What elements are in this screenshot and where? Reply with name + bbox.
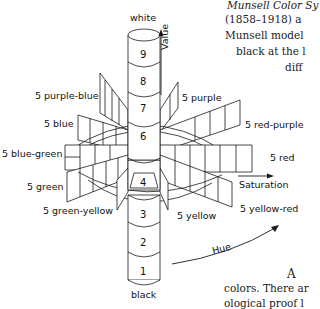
value-level-8: 8: [140, 77, 146, 87]
body-text-line-6: A: [287, 268, 296, 280]
value-level-6: 6: [140, 132, 146, 142]
value-level-9: 9: [140, 50, 146, 60]
value-level-2: 2: [140, 238, 146, 248]
fin-purple-blue: [100, 73, 128, 130]
value-level-3: 3: [140, 210, 146, 220]
hue-label-blue: 5 blue: [44, 119, 74, 129]
body-text-line-8: ological proof l: [224, 298, 304, 309]
body-text-line-4: black at the l: [236, 46, 306, 57]
white-label: white: [130, 13, 156, 23]
hue-label-green: 5 green: [27, 182, 64, 192]
body-text-line-5: diff: [285, 62, 303, 73]
value-level-4: 4: [140, 178, 146, 188]
body-text-line-1: Munsell Color Sy: [227, 0, 318, 11]
hue-label-red-purple: 5 red-purple: [245, 120, 304, 130]
saturation-label: Saturation: [239, 180, 289, 190]
hue-label-blue-green: 5 blue-green: [2, 149, 62, 159]
hue-label-purple: 5 purple: [182, 93, 222, 103]
hue-label-red: 5 red: [270, 153, 295, 163]
hue-label-yellow-red: 5 yellow-red: [240, 204, 298, 214]
hue-label-yellow: 5 yellow: [177, 211, 216, 221]
hue-label-purple-blue: 5 purple-blue: [35, 91, 99, 101]
black-label: black: [131, 290, 156, 300]
value-axis-label: Value: [160, 24, 170, 50]
hue-label-green-yellow: 5 green-yellow: [43, 206, 113, 216]
body-text-line-3: Munsell model: [225, 30, 304, 41]
body-text-line-7: colors. There ar: [224, 283, 309, 294]
value-level-7: 7: [140, 104, 146, 114]
body-text-line-2: (1858–1918) a: [225, 14, 301, 25]
value-level-1: 1: [140, 267, 146, 277]
